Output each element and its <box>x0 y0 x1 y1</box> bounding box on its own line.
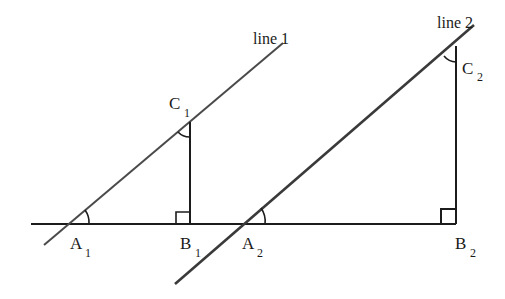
svg-text:B: B <box>180 234 191 253</box>
label-c1: C 1 <box>169 94 190 120</box>
svg-text:A: A <box>242 234 255 253</box>
angle-arc-c1 <box>178 132 190 137</box>
svg-text:C: C <box>462 59 473 78</box>
svg-text:1: 1 <box>195 246 201 260</box>
line-2-label: line 2 <box>437 14 473 31</box>
angle-arc-a1 <box>85 210 89 224</box>
similar-triangles-diagram: line 1 line 2 A 1 B 1 C 1 A 2 B 2 C 2 <box>0 0 505 299</box>
svg-text:A: A <box>70 234 83 253</box>
svg-text:B: B <box>455 234 466 253</box>
angle-arc-a2 <box>261 208 265 224</box>
svg-text:1: 1 <box>184 106 190 120</box>
label-a1: A 1 <box>70 234 91 260</box>
line-2 <box>175 25 474 284</box>
right-angle-mark-b2 <box>441 209 456 224</box>
svg-text:2: 2 <box>257 246 263 260</box>
label-a2: A 2 <box>242 234 263 260</box>
angle-arc-c2 <box>444 56 456 62</box>
svg-text:2: 2 <box>477 70 483 84</box>
line-1 <box>44 43 283 245</box>
label-c2: C 2 <box>462 59 483 84</box>
label-b1: B 1 <box>180 234 201 260</box>
line-1-label: line 1 <box>253 30 289 47</box>
svg-text:C: C <box>169 94 180 113</box>
label-b2: B 2 <box>455 234 476 260</box>
svg-text:2: 2 <box>470 246 476 260</box>
svg-text:1: 1 <box>85 246 91 260</box>
right-angle-mark-b1 <box>176 212 190 224</box>
